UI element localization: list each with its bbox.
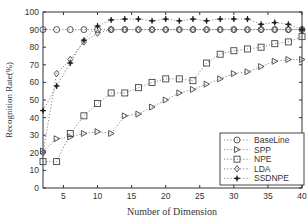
svg-text:SPP: SPP [254, 145, 271, 155]
y-tick-label: 70 [30, 60, 40, 70]
series-baseline [40, 27, 305, 33]
x-tick-label: 5 [61, 191, 66, 201]
x-tick-label: 35 [263, 191, 273, 201]
x-tick-label: 30 [229, 191, 239, 201]
x-axis-label: Number of Dimension [127, 206, 217, 217]
x-tick-label: 40 [297, 191, 307, 201]
x-tick-label: 25 [195, 191, 205, 201]
y-tick-label: 10 [30, 165, 40, 175]
x-tick-label: 20 [161, 191, 171, 201]
svg-text:NPE: NPE [254, 154, 272, 164]
x-tick-label: 15 [127, 191, 137, 201]
y-tick-label: 50 [30, 95, 40, 105]
y-tick-label: 0 [34, 183, 39, 193]
y-tick-label: 90 [30, 25, 40, 35]
x-tick-label: 10 [93, 191, 103, 201]
y-tick-label: 80 [30, 42, 40, 52]
svg-text:LDA: LDA [254, 164, 271, 174]
y-axis-label: Recognition Rate(%) [4, 62, 14, 138]
y-tick-label: 60 [30, 77, 40, 87]
y-tick-label: 20 [30, 148, 40, 158]
svg-text:SSDNPE: SSDNPE [254, 173, 289, 183]
legend: BaseLineSPPNPELDASSDNPE [220, 133, 304, 185]
y-tick-label: 100 [25, 7, 39, 17]
y-tick-label: 40 [30, 113, 40, 123]
recognition-rate-chart: 0102030405060708090100510152025303540 Ba… [0, 0, 308, 223]
y-tick-label: 30 [30, 130, 40, 140]
svg-text:BaseLine: BaseLine [254, 135, 290, 145]
